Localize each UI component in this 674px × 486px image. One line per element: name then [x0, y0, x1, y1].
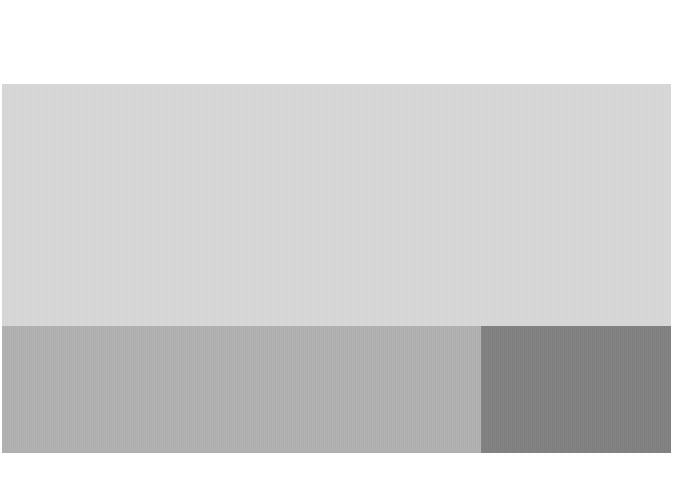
screen-canvas: [0, 0, 674, 486]
top-margin-area: [0, 0, 674, 84]
footer-accent-block: [481, 326, 671, 453]
bottom-margin-area: [0, 453, 674, 486]
footer-band: [2, 326, 481, 453]
header-panel: [2, 84, 671, 326]
